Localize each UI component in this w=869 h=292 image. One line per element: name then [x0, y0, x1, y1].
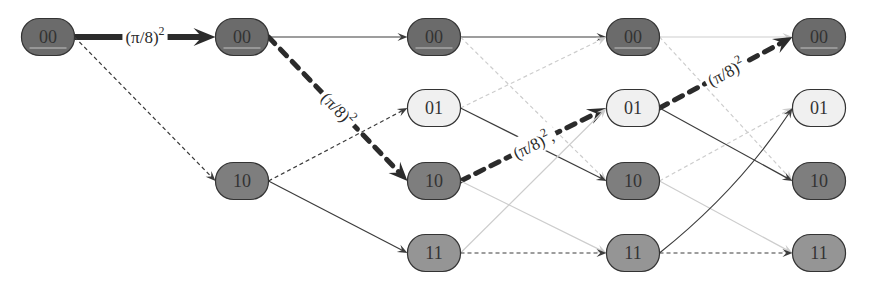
node-label: 01	[624, 98, 642, 118]
edges-layer	[75, 28, 793, 257]
node-c4-10: 10	[607, 163, 660, 200]
edge-c3-00-to-c4-00	[461, 33, 607, 41]
edge-line	[269, 181, 403, 250]
node-c4-01: 01	[607, 90, 660, 127]
node-label: 00	[233, 27, 251, 47]
edge-c1-00-to-c2-10	[75, 37, 216, 181]
node-c5-11: 11	[793, 235, 846, 272]
edge-label-group: (π/8)2	[122, 23, 167, 48]
node-c3-11: 11	[408, 235, 461, 272]
edge-c4-11-to-c5-11	[660, 249, 793, 257]
nodes-layer: 000010000110110001101100011011	[22, 19, 846, 272]
edge-line	[660, 111, 788, 181]
edge-c2-00-to-c3-00	[269, 33, 408, 41]
edge-c3-01-to-c4-00	[461, 37, 607, 108]
node-c3-01: 01	[408, 90, 461, 127]
edge-line	[461, 181, 602, 250]
edge-line	[75, 37, 212, 177]
node-label: 11	[425, 243, 442, 263]
edge-c3-10-to-c4-11	[461, 181, 607, 253]
trellis-diagram: (π/8)2(π/8)2(π/8)2,(π/8)2 00001000011011…	[0, 0, 869, 292]
edge-label-group: (π/8)2,	[505, 121, 560, 165]
node-label: 00	[810, 27, 828, 47]
edge-line	[660, 181, 788, 250]
edge-c2-10-to-c3-11	[269, 181, 408, 253]
node-c1-00: 00	[22, 19, 75, 56]
edge-c4-00-to-c5-00	[660, 33, 793, 41]
node-label: 11	[810, 243, 827, 263]
node-label: 01	[810, 98, 828, 118]
node-c3-00: 00	[408, 19, 461, 56]
arrowhead-icon	[596, 37, 607, 45]
node-label: 11	[624, 243, 641, 263]
node-c4-11: 11	[607, 235, 660, 272]
node-label: 10	[624, 171, 642, 191]
edge-c4-11-to-c5-01	[660, 108, 793, 253]
arrowhead-icon	[397, 108, 408, 116]
node-label: 00	[425, 27, 443, 47]
arrowhead-icon	[772, 37, 793, 53]
node-c2-10: 10	[216, 163, 269, 200]
node-c5-01: 01	[793, 90, 846, 127]
edge-line	[461, 40, 602, 108]
edge-c3-00-to-c4-10	[461, 37, 607, 181]
node-c5-10: 10	[793, 163, 846, 200]
node-c2-00: 00	[216, 19, 269, 56]
trellis-diagram-canvas: (π/8)2(π/8)2(π/8)2,(π/8)2 00001000011011…	[0, 0, 869, 292]
node-label: 00	[624, 27, 642, 47]
edge-c3-11-to-c4-11	[461, 249, 607, 257]
node-label: 10	[810, 171, 828, 191]
node-c5-00: 00	[793, 19, 846, 56]
edge-label-group: (π/8)2	[699, 50, 751, 93]
node-label: 00	[39, 27, 57, 47]
edge-line	[660, 113, 790, 253]
edge-label-superscript: 2	[159, 24, 165, 38]
node-label: 10	[233, 171, 251, 191]
node-label: 01	[425, 98, 443, 118]
node-c4-00: 00	[607, 19, 660, 56]
node-c3-10: 10	[408, 163, 461, 200]
edge-label-base: (π/8)	[125, 28, 158, 47]
node-label: 10	[425, 171, 443, 191]
